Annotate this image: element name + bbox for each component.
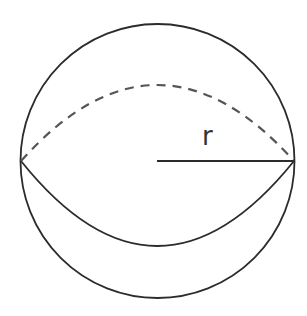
radius-label: r — [202, 121, 213, 151]
equator-back-arc-dashed — [21, 85, 294, 161]
sphere-diagram: r — [0, 0, 307, 316]
equator-front-arc — [21, 161, 294, 246]
